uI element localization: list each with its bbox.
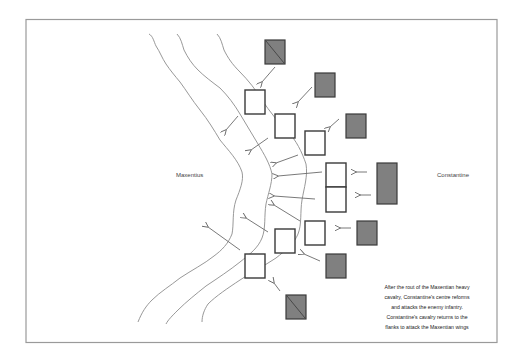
cavalry-unit-top-flank <box>265 40 285 64</box>
cavalry-unit-lower-2 <box>326 254 346 278</box>
caption-line: Constantine's cavalry returns to the <box>386 314 467 320</box>
cavalry-unit-lower-1 <box>357 221 377 245</box>
cavalry-unit-upper-1 <box>315 73 335 97</box>
cavalry-unit-upper-2 <box>346 114 366 138</box>
cavalry-unit-bottom-flank <box>286 295 306 319</box>
infantry-unit-2 <box>275 114 295 138</box>
infantry-unit-1 <box>245 90 265 114</box>
caption-line: flanks to attack the Maxentian wings <box>385 324 469 330</box>
infantry-unit-6 <box>245 254 265 278</box>
infantry-unit-centre-top <box>326 163 346 187</box>
caption-line: cavalry, Constantine's centre reforms <box>384 294 469 300</box>
infantry-unit-4 <box>305 221 325 245</box>
caption-line: After the rout of the Maxentian heavy <box>384 284 469 290</box>
caption-line: and attacks the enemy infantry. <box>391 304 463 310</box>
label-maxentius: Maxentius <box>176 172 203 178</box>
cavalry-unit-centre <box>377 163 397 204</box>
infantry-unit-3 <box>305 131 325 155</box>
infantry-unit-centre-bottom <box>326 187 346 212</box>
label-constantine: Constantine <box>437 172 470 178</box>
battle-diagram: Maxentius Constantine After the rout of … <box>0 0 525 356</box>
infantry-unit-5 <box>275 229 295 253</box>
